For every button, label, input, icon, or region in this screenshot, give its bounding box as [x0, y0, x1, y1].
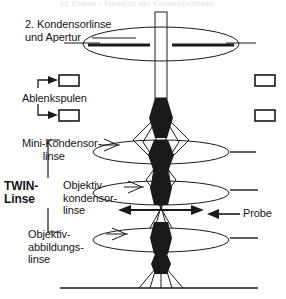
- electron-beam-path: [133, 12, 189, 288]
- label-mini-condenser: Mini-Kondensor- linse: [22, 137, 101, 162]
- label-twin-lens: TWIN- Linse: [4, 180, 38, 205]
- crossover-4: [150, 222, 172, 254]
- coil-box-bottom-left: [59, 110, 79, 121]
- specimen-pointer: [207, 209, 240, 219]
- coil-box-top-right: [255, 75, 275, 86]
- crossover-1: [149, 98, 173, 138]
- diagram-canvas: 12 Einbau / Funktion der Kondensorlinsen: [0, 0, 286, 299]
- lens-objective-condenser: [93, 181, 258, 205]
- crossover-2: [148, 140, 174, 172]
- label-specimen: Probe: [243, 207, 272, 220]
- lens-objective-imaging: [93, 228, 258, 252]
- label-objective-imaging: Objektiv- abbildungs- linse: [28, 228, 84, 266]
- coil-box-top-left: [59, 75, 79, 86]
- lens-mini-condenser: [93, 140, 256, 164]
- coil-box-bottom-right: [255, 110, 275, 121]
- label-objective-condenser: Objektiv- kondensor- linse: [63, 179, 117, 217]
- label-condenser-2: 2. Kondensorlinse und Apertur: [25, 18, 111, 43]
- crossover-3: [150, 172, 172, 205]
- label-deflection-coils: Ablenkspulen: [22, 92, 87, 105]
